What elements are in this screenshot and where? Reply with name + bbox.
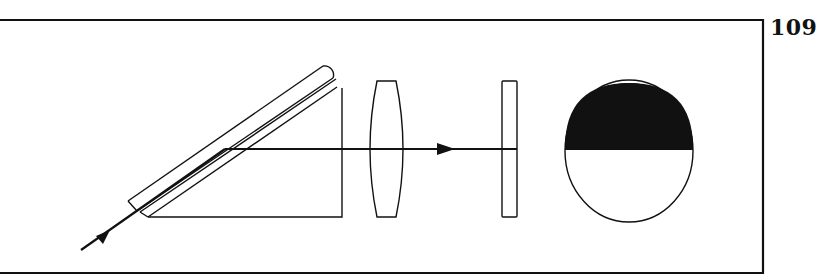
prism-slab — [128, 66, 334, 211]
page-number: 109 — [770, 14, 817, 40]
arrowhead-incident-icon — [96, 230, 110, 244]
light-ray — [81, 149, 517, 250]
field-of-view — [565, 80, 693, 222]
optical-diagram — [0, 0, 820, 277]
figure-frame: 109 — [0, 0, 820, 277]
arrowhead-reflected-icon — [437, 143, 455, 155]
